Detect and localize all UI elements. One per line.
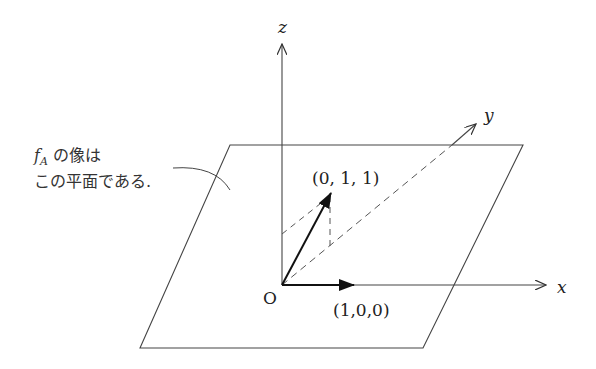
vector-0-1-1-label: (0, 1, 1) xyxy=(312,168,379,188)
vector-1-0-0-label: (1,0,0) xyxy=(333,300,390,320)
y-axis xyxy=(452,124,476,145)
projection-line-z xyxy=(282,196,330,234)
x-axis-label: x xyxy=(557,277,567,297)
annotation-line-2: この平面である. xyxy=(34,172,151,192)
origin-label: O xyxy=(263,288,277,308)
vector-0-1-1 xyxy=(282,193,331,285)
z-axis-label: z xyxy=(277,17,288,37)
y-axis-label: y xyxy=(483,105,494,125)
annotation-line-1: fA の像は xyxy=(34,146,151,172)
plane-annotation: fA の像は この平面である. xyxy=(34,146,151,192)
annotation-pointer xyxy=(173,168,230,190)
annotation-text-1: の像は xyxy=(48,146,101,165)
subscript-a: A xyxy=(40,155,48,168)
y-axis-dashed xyxy=(282,145,452,285)
